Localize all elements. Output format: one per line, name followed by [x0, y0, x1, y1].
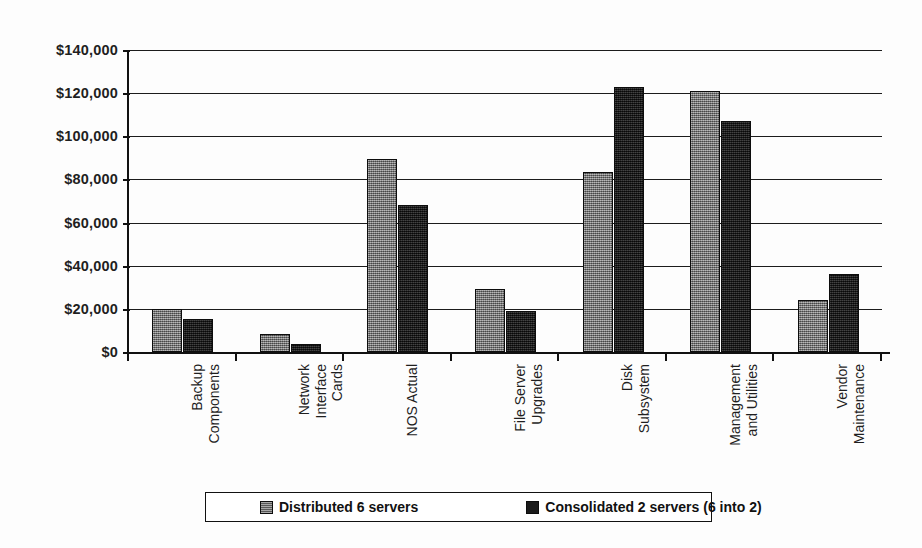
x-axis-category-label: Backup Components: [189, 364, 222, 482]
legend-label-consolidated: Consolidated 2 servers (6 into 2): [545, 499, 761, 515]
bar: [152, 309, 182, 352]
legend-swatch-icon-distributed: [260, 501, 273, 514]
bar: [721, 121, 751, 352]
plot-wrapper: $0$20,000$40,000$60,000$80,000$100,000$1…: [0, 0, 922, 548]
y-axis-tick-label: $60,000: [64, 215, 118, 231]
bar-group: [583, 50, 644, 352]
y-axis-tick-label: $100,000: [56, 128, 118, 144]
bar-group: [475, 50, 536, 352]
bar: [690, 91, 720, 352]
y-axis-tick-label: $120,000: [56, 85, 118, 101]
x-axis-category-label: NOS Actual: [404, 364, 421, 482]
bar-chart: $0$20,000$40,000$60,000$80,000$100,000$1…: [0, 0, 922, 548]
bar: [583, 172, 613, 352]
x-axis-category-label: Vendor Maintenance: [834, 364, 867, 482]
y-axis-tick-mark: [123, 223, 130, 225]
bar: [475, 289, 505, 352]
bar-group: [690, 50, 751, 352]
x-axis-category-label: Management and Utilities: [727, 364, 760, 482]
y-axis-tick-mark: [123, 93, 130, 95]
x-axis-tick-mark: [557, 352, 559, 361]
x-axis-tick-mark: [880, 352, 882, 361]
bar-group: [260, 50, 321, 352]
bar-group: [798, 50, 859, 352]
x-axis-category-label: File Server Upgrades: [512, 364, 545, 482]
y-axis-tick-mark: [123, 179, 130, 181]
x-axis-tick-mark: [665, 352, 667, 361]
bar-group: [367, 50, 428, 352]
legend-item-distributed: Distributed 6 servers: [260, 499, 418, 515]
bar: [829, 274, 859, 352]
x-axis-category-label: Network Interface Cards: [296, 364, 346, 482]
x-axis-category-label: Disk Subsystem: [619, 364, 652, 482]
x-axis-tick-mark: [450, 352, 452, 361]
bar: [183, 319, 213, 352]
y-axis-tick-mark: [123, 266, 130, 268]
y-axis-tick-mark: [123, 136, 130, 138]
legend-swatch-icon-consolidated: [526, 501, 539, 514]
y-axis-tick-labels: $0$20,000$40,000$60,000$80,000$100,000$1…: [18, 40, 118, 364]
plot-area: [127, 50, 882, 352]
legend-label-distributed: Distributed 6 servers: [279, 499, 418, 515]
x-axis-tick-mark: [772, 352, 774, 361]
bar: [291, 344, 321, 352]
chart-legend: Distributed 6 servers Consolidated 2 ser…: [205, 492, 712, 522]
bar: [367, 159, 397, 352]
x-axis-tick-mark: [235, 352, 237, 361]
y-axis-tick-label: $80,000: [64, 171, 118, 187]
y-axis-tick-mark: [123, 50, 130, 52]
bar: [506, 311, 536, 352]
x-axis-tick-mark: [342, 352, 344, 361]
x-axis-line: [127, 352, 890, 354]
x-axis-tick-mark: [127, 352, 129, 361]
legend-item-consolidated: Consolidated 2 servers (6 into 2): [526, 499, 761, 515]
bar: [260, 334, 290, 352]
bar: [798, 300, 828, 352]
y-axis-tick-mark: [123, 309, 130, 311]
bar-group: [152, 50, 213, 352]
bar: [614, 87, 644, 352]
y-axis-tick-label: $0: [101, 344, 118, 360]
bar: [398, 205, 428, 352]
y-axis-tick-label: $20,000: [64, 301, 118, 317]
y-axis-tick-label: $40,000: [64, 258, 118, 274]
y-axis-tick-label: $140,000: [56, 42, 118, 58]
